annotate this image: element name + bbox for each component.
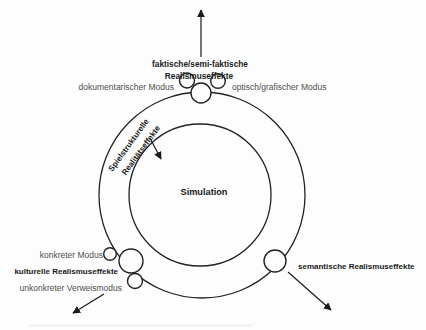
label-semantische-realismuseffekte: semantische Realismuseffekte <box>298 262 415 271</box>
node-bottom-left-upper-circle <box>104 248 117 261</box>
center-label: Simulation <box>181 187 228 197</box>
node-right-circle <box>264 250 286 272</box>
node-top-main-circle <box>191 83 211 103</box>
label-konkreter-modus: konkreter Modus <box>40 250 103 260</box>
node-bottom-left-main-circle <box>119 249 143 273</box>
ring-label-group: Spielstrukturelle Realitätseffekte <box>107 116 163 181</box>
node-bottom-left-lower-circle <box>128 274 143 289</box>
diagram-canvas: faktische/semi-faktische Realismuseffekt… <box>0 0 426 330</box>
label-kulturelle-realismuseffekte: kulturelle Realismuseffekte <box>14 267 118 276</box>
label-unkonkreter-verweismodus: unkonkreter Verweismodus <box>19 283 122 293</box>
bottom-left-arrow <box>73 294 104 313</box>
label-dokumentarischer-modus: dokumentarischer Modus <box>79 82 174 92</box>
scan-artifact <box>28 324 253 327</box>
top-title-line1: faktische/semi-faktische <box>152 59 248 69</box>
label-optisch-grafischer-modus: optisch/grafischer Modus <box>232 82 327 92</box>
ring-label-arrow <box>151 140 161 159</box>
top-title-line2: Realismuseffekte <box>165 71 234 81</box>
realism-effects-diagram: faktische/semi-faktische Realismuseffekt… <box>0 0 426 330</box>
bottom-right-arrow <box>288 272 331 310</box>
